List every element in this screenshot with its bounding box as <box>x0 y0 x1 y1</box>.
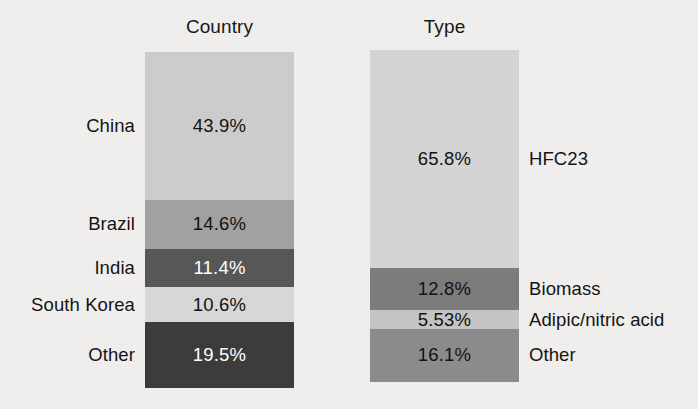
category-label: HFC23 <box>529 148 588 170</box>
bar-segment: 65.8% <box>370 50 519 268</box>
bar-segment: 14.6% <box>145 200 294 249</box>
category-label: Adipic/nitric acid <box>529 309 664 331</box>
bar-segment-value: 19.5% <box>193 344 246 366</box>
bar-segment-value: 65.8% <box>418 148 471 170</box>
category-label: Biomass <box>529 278 601 300</box>
bar-segment-value: 5.53% <box>418 309 471 331</box>
category-label: India <box>0 257 135 279</box>
category-label: Other <box>529 344 576 366</box>
bar-segment: 19.5% <box>145 322 294 388</box>
bar-segment: 12.8% <box>370 268 519 310</box>
panel-title-country: Country <box>145 16 294 38</box>
bar-segment: 16.1% <box>370 329 519 382</box>
bar-segment-value: 16.1% <box>418 344 471 366</box>
bar-segment-value: 43.9% <box>193 115 246 137</box>
bar-segment: 10.6% <box>145 287 294 323</box>
bar-segment-value: 14.6% <box>193 213 246 235</box>
panel-title-type: Type <box>370 16 519 38</box>
category-label: China <box>0 115 135 137</box>
bar-segment-value: 12.8% <box>418 278 471 300</box>
bar-segment-value: 11.4% <box>193 257 245 279</box>
bar-segment-value: 10.6% <box>193 294 246 316</box>
scan-artifact-text <box>556 209 560 221</box>
chart-figure: Country 43.9%14.6%11.4%10.6%19.5% Type 6… <box>0 0 698 409</box>
stacked-bar-country: 43.9%14.6%11.4%10.6%19.5% <box>145 52 294 388</box>
category-label: Brazil <box>0 213 135 235</box>
bar-segment: 43.9% <box>145 52 294 200</box>
bar-segment: 11.4% <box>145 249 294 287</box>
bar-segment: 5.53% <box>370 310 519 328</box>
category-label: South Korea <box>0 294 135 316</box>
category-label: Other <box>0 344 135 366</box>
stacked-bar-type: 65.8%12.8%5.53%16.1% <box>370 50 519 382</box>
